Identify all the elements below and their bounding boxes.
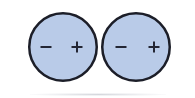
figure-canvas [0,0,195,98]
right-circle [102,13,170,81]
right-circle-group [102,13,170,81]
left-circle-group [29,13,97,81]
circles-diagram [0,0,195,98]
left-circle [29,13,97,81]
